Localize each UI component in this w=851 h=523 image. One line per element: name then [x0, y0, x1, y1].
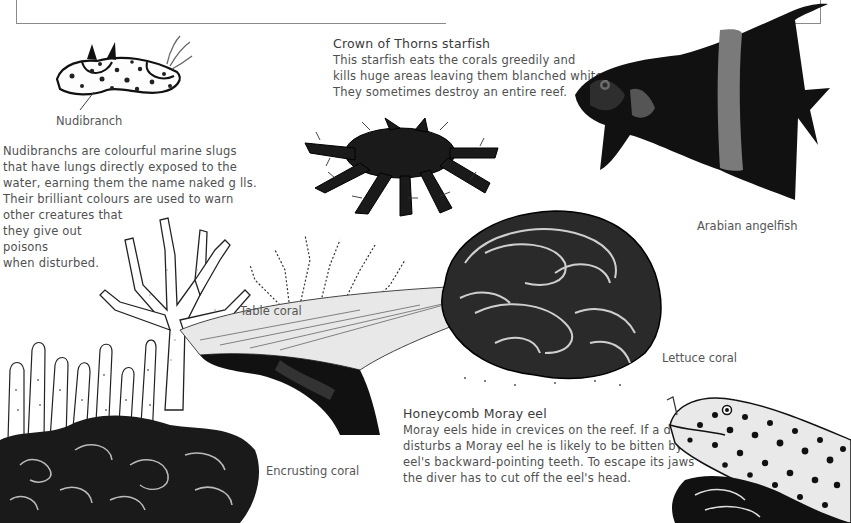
angelfish-illustration [570, 0, 840, 210]
nudibranch-label: Nudibranch [56, 114, 122, 128]
starfish-title: Crown of Thorns starfish [333, 36, 607, 52]
lettuce-coral-label: Lettuce coral [662, 351, 737, 365]
frame-left-edge [16, 0, 17, 24]
encrusting-coral-label: Encrusting coral [266, 464, 359, 478]
nudibranch-line: that have lungs directly exposed to the [3, 159, 257, 175]
encrusting-coral-illustration [0, 405, 265, 523]
starfish-line: kills huge areas leaving them blanched w… [333, 68, 607, 84]
frame-bottom-edge-mid [16, 23, 446, 24]
nudibranch-illustration [52, 34, 192, 114]
lettuce-coral-illustration [425, 203, 665, 388]
angelfish-label: Arabian angelfish [697, 219, 798, 233]
table-coral-label: Table coral [240, 304, 302, 318]
starfish-line: This starfish eats the corals greedily a… [333, 52, 607, 68]
starfish-text-block: Crown of Thorns starfish This starfish e… [333, 36, 607, 100]
nudibranch-line: Nudibranchs are colourful marine slugs [3, 143, 257, 159]
starfish-line: They sometimes destroy an entire reef. [333, 84, 607, 100]
nudibranch-line: Their brilliant colours are used to warn [3, 191, 257, 207]
moray-eel-illustration [655, 385, 851, 523]
nudibranch-line: water, earning them the name naked g lls… [3, 175, 257, 191]
